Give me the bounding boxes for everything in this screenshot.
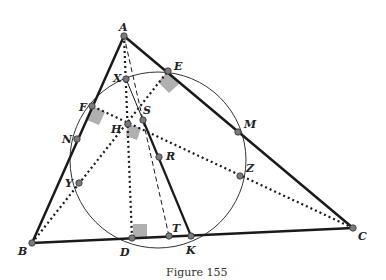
point-E xyxy=(165,68,171,74)
point-S xyxy=(140,117,146,123)
point-H xyxy=(125,121,131,127)
point-Z xyxy=(237,173,243,179)
label-X: X xyxy=(112,72,122,85)
point-C xyxy=(350,225,356,231)
label-E: E xyxy=(173,60,183,73)
label-Z: Z xyxy=(245,162,255,175)
point-X xyxy=(123,76,129,82)
label-C: C xyxy=(358,230,367,243)
point-F xyxy=(89,103,95,109)
point-M xyxy=(235,129,241,135)
point-N xyxy=(74,136,80,142)
label-Y: Y xyxy=(65,177,74,190)
label-D: D xyxy=(119,246,130,259)
label-N: N xyxy=(61,133,73,146)
point-R xyxy=(156,154,162,160)
altitude-BE xyxy=(32,71,168,243)
figure-caption: Figure 155 xyxy=(166,266,228,279)
points-group xyxy=(29,33,356,246)
line-SK xyxy=(143,120,191,236)
labels-group: ABCDKTEFNYXSHRMZ xyxy=(17,21,367,259)
label-M: M xyxy=(243,118,257,131)
point-Y xyxy=(76,180,82,186)
right-angle-marker-D xyxy=(133,224,147,238)
label-S: S xyxy=(143,104,151,117)
geometry-diagram: ABCDKTEFNYXSHRMZ Figure 155 xyxy=(0,0,386,280)
label-F: F xyxy=(78,101,88,114)
label-T: T xyxy=(172,222,181,235)
label-R: R xyxy=(165,150,175,163)
label-K: K xyxy=(185,244,196,257)
label-H: H xyxy=(110,123,122,136)
label-B: B xyxy=(17,245,27,258)
point-B xyxy=(29,240,35,246)
point-K xyxy=(188,233,194,239)
point-D xyxy=(129,235,135,241)
label-A: A xyxy=(118,21,128,34)
figure-155: ABCDKTEFNYXSHRMZ Figure 155 xyxy=(0,0,386,280)
